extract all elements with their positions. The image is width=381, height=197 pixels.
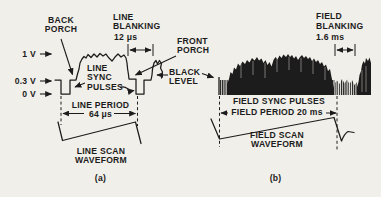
line-blanking-label: LINE BLANKING — [113, 13, 160, 32]
field-video-waveform — [219, 54, 371, 95]
sync-pulse-arrow-left — [75, 83, 85, 87]
black-level-label: BLACK LEVEL — [169, 68, 200, 87]
line-period-value: 64 μs — [64, 110, 138, 119]
field-blanking-measure — [335, 44, 355, 56]
line-sync-pulses-label: LINE SYNC PULSES — [87, 64, 123, 92]
back-porch-label: BACK PORCH — [40, 16, 82, 35]
field-blanking-striations — [335, 79, 357, 95]
line-blanking-value: 12 μs — [114, 33, 137, 42]
voltage-arrows — [40, 54, 52, 94]
line-scan-sawtooth — [58, 122, 141, 144]
field-sync-pulses-label: FIELD SYNC PULSES — [221, 97, 337, 106]
back-porch-arrow — [61, 39, 73, 75]
field-next-rise — [357, 58, 371, 96]
front-porch-label: FRONT PORCH — [177, 37, 209, 56]
field-blanking-label: FIELD BLANKING — [316, 12, 363, 31]
black-level-arrow-right — [202, 74, 214, 78]
panel-a-label: (a) — [88, 174, 113, 183]
line-scan-waveform-label: LINE SCAN WAVEFORM — [61, 147, 141, 166]
voltage-label-03v: 0.3 V — [6, 77, 36, 86]
voltage-label-0v: 0 V — [6, 90, 36, 99]
line-blanking-measure — [128, 44, 153, 56]
field-video-envelope — [227, 54, 334, 95]
field-blanking-value: 1.6 ms — [316, 33, 344, 42]
panel-b-label: (b) — [263, 174, 288, 183]
voltage-label-1v: 1 V — [6, 50, 36, 59]
field-period-label: FIELD PERIOD 20 ms — [227, 108, 327, 117]
waveform-diagram: 1 V 0.3 V 0 V BACK PORCH LINE BLANKING 1… — [0, 0, 381, 197]
field-scan-waveform-label: FIELD SCAN WAVEFORM — [237, 131, 317, 150]
